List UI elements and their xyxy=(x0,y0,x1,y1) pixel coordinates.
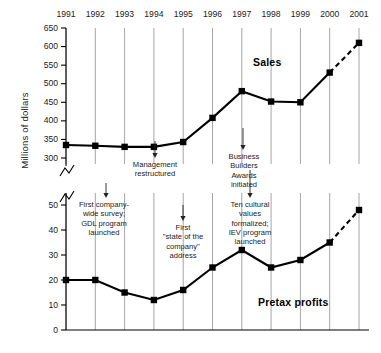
data-point-pretax-profits-2001 xyxy=(356,207,362,213)
data-point-pretax-profits-1999 xyxy=(297,257,303,263)
gridlines-group xyxy=(66,28,359,330)
annotation-line: Builders xyxy=(215,161,273,170)
annotation-line: Management xyxy=(117,160,193,169)
annotation-arrowhead-ten-cultural-values xyxy=(247,193,252,198)
annotation-line: IEV program xyxy=(215,228,285,237)
data-point-pretax-profits-1996 xyxy=(209,264,215,270)
x-tick-label-1998: 1998 xyxy=(256,9,286,19)
annotation-line: First xyxy=(146,223,220,232)
data-point-pretax-profits-1994 xyxy=(151,297,157,303)
data-point-sales-2001 xyxy=(356,40,362,46)
axis-break-upper xyxy=(60,165,74,176)
series-projection-pretax-profits xyxy=(330,210,359,243)
x-tick-label-2001: 2001 xyxy=(344,9,374,19)
annotation-line: wide survey; xyxy=(66,209,142,218)
annotation-arrowhead-first-company-wide-survey xyxy=(103,193,108,198)
data-point-sales-1998 xyxy=(268,98,274,104)
annotation-line: Awards xyxy=(215,171,273,180)
x-tick-label-1999: 1999 xyxy=(285,9,315,19)
x-tick-label-1995: 1995 xyxy=(168,9,198,19)
y-tick-label-600: 600 xyxy=(32,41,58,51)
annotation-line: company" xyxy=(146,242,220,251)
data-point-pretax-profits-1995 xyxy=(180,287,186,293)
y-tick-label-lower-0: 0 xyxy=(32,325,58,335)
data-point-pretax-profits-1992 xyxy=(92,277,98,283)
data-point-sales-1999 xyxy=(297,99,303,105)
data-point-pretax-profits-2000 xyxy=(327,239,333,245)
annotation-line: First company- xyxy=(66,200,142,209)
series-label-sales: Sales xyxy=(253,56,281,68)
data-point-pretax-profits-1998 xyxy=(268,264,274,270)
y-tick-label-450: 450 xyxy=(32,97,58,107)
annotation-line: values xyxy=(215,209,285,218)
annotation-line: launched xyxy=(66,228,142,237)
annotation-line: GDL program xyxy=(66,219,142,228)
data-point-sales-1992 xyxy=(92,143,98,149)
data-point-sales-1996 xyxy=(209,115,215,121)
x-tick-label-2000: 2000 xyxy=(315,9,345,19)
y-tick-label-550: 550 xyxy=(32,60,58,70)
data-point-sales-1995 xyxy=(180,139,186,145)
annotation-arrowhead-business-builders-awards xyxy=(240,145,245,150)
data-point-sales-1994 xyxy=(151,144,157,150)
annotation-line: initiated xyxy=(215,180,273,189)
x-tick-label-1991: 1991 xyxy=(51,9,81,19)
annotation-arrowhead-management-restructured xyxy=(152,153,157,158)
y-tick-label-350: 350 xyxy=(32,134,58,144)
data-point-sales-1993 xyxy=(121,144,127,150)
annotation-line: "state of the xyxy=(146,232,220,241)
y-tick-label-650: 650 xyxy=(32,23,58,33)
data-point-sales-1991 xyxy=(63,142,69,148)
data-point-sales-1997 xyxy=(239,88,245,94)
annotation-line: Business xyxy=(215,152,273,161)
annotation-line: launched xyxy=(215,237,285,246)
x-tick-label-1997: 1997 xyxy=(227,9,257,19)
x-tick-label-1994: 1994 xyxy=(139,9,169,19)
y-tick-label-500: 500 xyxy=(32,78,58,88)
annotation-line: address xyxy=(146,251,220,260)
annotation-ten-cultural-values: Ten culturalvaluesformalized;IEV program… xyxy=(215,200,285,246)
data-point-pretax-profits-1993 xyxy=(121,289,127,295)
series-projection-sales xyxy=(330,43,359,73)
y-tick-label-lower-30: 30 xyxy=(32,250,58,260)
data-point-pretax-profits-1997 xyxy=(239,247,245,253)
y-tick-label-lower-50: 50 xyxy=(32,200,58,210)
annotation-business-builders-awards: BusinessBuildersAwardsinitiated xyxy=(215,152,273,189)
x-tick-label-1996: 1996 xyxy=(198,9,228,19)
annotation-first-company-wide-survey: First company-wide survey;GDL programlau… xyxy=(66,200,142,237)
annotation-line: Ten cultural xyxy=(215,200,285,209)
x-tick-label-1992: 1992 xyxy=(80,9,110,19)
data-point-pretax-profits-1991 xyxy=(63,277,69,283)
annotation-management-restructured: Managementrestructured xyxy=(117,160,193,179)
series-line-sales xyxy=(66,73,330,147)
series-label-pretax-profits: Pretax profits xyxy=(258,296,329,308)
annotation-line: restructured xyxy=(117,169,193,178)
annotation-arrowhead-state-of-the-company-address xyxy=(180,216,185,221)
annotation-state-of-the-company-address: First"state of thecompany"address xyxy=(146,223,220,260)
y-tick-label-400: 400 xyxy=(32,115,58,125)
chart-canvas: Millions of dollars 19911992199319941995… xyxy=(0,0,381,353)
y-tick-label-lower-20: 20 xyxy=(32,275,58,285)
data-point-sales-2000 xyxy=(327,69,333,75)
y-tick-label-lower-10: 10 xyxy=(32,300,58,310)
y-tick-label-300: 300 xyxy=(32,153,58,163)
y-tick-label-lower-40: 40 xyxy=(32,225,58,235)
x-tick-label-1993: 1993 xyxy=(110,9,140,19)
annotation-line: formalized; xyxy=(215,219,285,228)
